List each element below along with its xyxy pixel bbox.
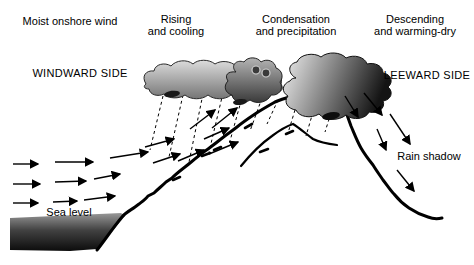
label-windward-side: WINDWARD SIDE [32,67,127,79]
label-leeward-side: LEEWARD SIDE [384,69,470,81]
wind-arrow [55,181,86,182]
label-sea-level: Sea level [46,206,91,218]
cloud-droplet-circle [252,66,260,74]
cloud-droplet-circle [262,69,270,77]
label-rising-line1: Rising [161,13,192,25]
wind-arrow [53,201,77,202]
label-condensation-line2: and precipitation [256,25,337,37]
label-moist-onshore-wind: Moist onshore wind [23,15,118,27]
label-rain-shadow: Rain shadow [397,150,461,162]
label-descending-line2: and warming-dry [374,25,456,37]
diagram-canvas: Moist onshore wind Rising and cooling Co… [0,0,474,265]
label-rising-line2: and cooling [148,25,204,37]
label-condensation-line1: Condensation [262,13,330,25]
orographic-diagram: Moist onshore wind Rising and cooling Co… [0,0,474,265]
label-descending-line1: Descending [386,13,444,25]
